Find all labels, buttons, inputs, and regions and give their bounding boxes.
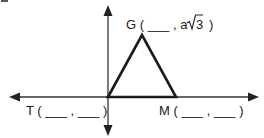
y-axis-down-arrow-icon [104,125,113,136]
label-G-close: ) [209,17,213,32]
label-G-text: G ( ___ , a [126,17,188,32]
coordinate-diagram: G ( ___ , a 3 ) T ( ___ , ___ ) M ( ___ … [0,0,264,138]
point-label-T: T ( ___ , ___ ) [26,103,107,118]
point-label-G: G ( ___ , a 3 ) [126,15,213,32]
corner-mark [1,0,8,2]
y-axis-up-arrow-icon [104,5,113,16]
point-label-M: M ( ___ , ___ ) [159,103,244,118]
triangle-TGM [108,35,176,97]
x-axis-right-arrow-icon [248,93,259,102]
x-axis-left-arrow-icon [9,93,20,102]
label-G-radicand: 3 [196,17,203,32]
